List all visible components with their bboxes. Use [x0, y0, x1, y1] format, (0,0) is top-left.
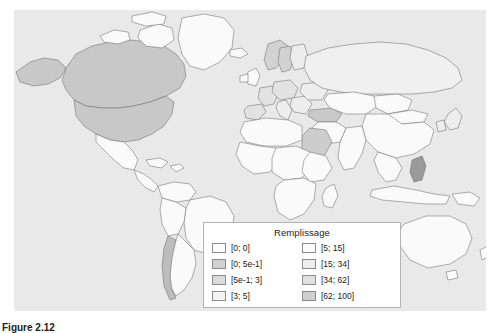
legend-title: Remplissage [204, 227, 400, 238]
legend-item[interactable]: [0; 0] [212, 241, 302, 254]
legend-item-label: [0; 5e-1] [231, 259, 262, 269]
legend-item-label: [34; 62] [321, 275, 349, 285]
island-tasmania [446, 270, 458, 280]
region-north-africa [240, 118, 302, 146]
legend-swatch [302, 243, 316, 253]
legend-item[interactable]: [62; 100] [302, 289, 392, 302]
legend-item[interactable]: [34; 62] [302, 273, 392, 286]
legend-swatch [212, 259, 226, 269]
legend-item-label: [62; 100] [321, 291, 354, 301]
legend-item[interactable]: [5e-1; 3] [212, 273, 302, 286]
legend-swatch [302, 291, 316, 301]
legend-item[interactable]: [3; 5] [212, 289, 302, 302]
legend-item[interactable]: [15; 34] [302, 257, 392, 270]
legend-column-right: [5; 15] [15; 34] [34; 62] [62; 100] [302, 241, 392, 302]
legend-item-label: [0; 0] [231, 243, 250, 253]
figure-container: Remplissage [0; 0] [0; 5e-1] [5e-1; 3] [ [0, 0, 499, 333]
legend-swatch [212, 275, 226, 285]
legend-item-label: [3; 5] [231, 291, 250, 301]
figure-caption: Figure 2.12 [2, 322, 55, 333]
legend-item[interactable]: [5; 15] [302, 241, 392, 254]
legend-swatch [212, 243, 226, 253]
region-korea [436, 120, 446, 132]
legend-item-label: [15; 34] [321, 259, 349, 269]
legend-column-left: [0; 0] [0; 5e-1] [5e-1; 3] [3; 5] [212, 241, 302, 302]
legend-item-label: [5e-1; 3] [231, 275, 262, 285]
legend-swatch [302, 259, 316, 269]
legend-item-label: [5; 15] [321, 243, 345, 253]
legend-item[interactable]: [0; 5e-1] [212, 257, 302, 270]
legend-swatch [302, 275, 316, 285]
legend-swatch [212, 291, 226, 301]
map-legend: Remplissage [0; 0] [0; 5e-1] [5e-1; 3] [ [203, 222, 401, 308]
legend-columns: [0; 0] [0; 5e-1] [5e-1; 3] [3; 5] [204, 241, 400, 302]
